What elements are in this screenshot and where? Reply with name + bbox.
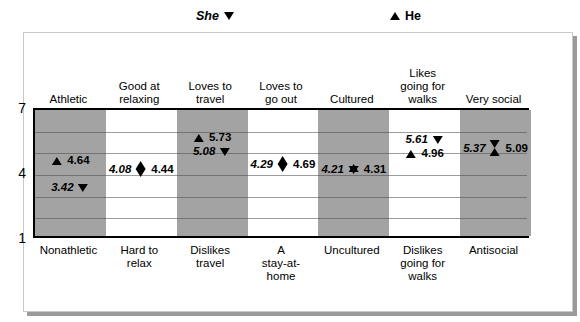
data-markers: 3.424.644.084.445.085.734.294.694.214.31… xyxy=(35,110,527,236)
chart-area: AthleticGood atrelaxingLoves totravelLov… xyxy=(33,48,529,238)
triangle-up-icon xyxy=(406,150,416,158)
data-value-he: 5.09 xyxy=(506,143,528,155)
data-value-he: 4.44 xyxy=(151,164,173,176)
star-marker-icon xyxy=(348,161,360,177)
data-value-she: 4.08 xyxy=(109,164,131,176)
marker-he: 4.96 xyxy=(406,148,444,160)
marker-glyph-she xyxy=(219,146,231,158)
triangle-down-icon xyxy=(220,148,230,156)
triangle-up-icon xyxy=(193,134,203,142)
bottom-category-labels: NonathleticHard torelaxDislikestravelAst… xyxy=(33,240,529,300)
chart-page: She He 7 4 1 AthleticGood atrelaxingLove… xyxy=(0,0,580,322)
data-value-she: 5.08 xyxy=(193,146,215,158)
marker-he: 4.64 xyxy=(51,155,89,167)
triangle-up-icon xyxy=(136,161,146,169)
data-value-she: 5.61 xyxy=(406,134,428,146)
bottom-category-label: Astay-at-home xyxy=(246,244,317,283)
triangle-down-icon xyxy=(490,140,500,148)
data-value-she: 5.37 xyxy=(463,143,485,155)
data-value-she: 4.29 xyxy=(251,159,273,171)
marker-glyph-he xyxy=(406,148,418,160)
y-tick-1: 1 xyxy=(18,231,26,245)
marker-she: 5.61 xyxy=(406,134,444,146)
top-category-label: Cultured xyxy=(316,93,387,106)
data-value-he: 4.64 xyxy=(67,155,89,167)
bottom-category-label: Nonathletic xyxy=(33,244,104,257)
legend-item-she: She xyxy=(196,10,234,23)
marker-pair-hourglass: 5.375.09 xyxy=(463,140,528,156)
marker-pair-star: 4.214.31 xyxy=(321,161,386,177)
top-category-labels: AthleticGood atrelaxingLoves totravelLov… xyxy=(33,48,529,108)
top-category-label: Athletic xyxy=(33,93,104,106)
data-value-he: 4.69 xyxy=(293,159,315,171)
y-tick-4: 4 xyxy=(18,166,26,180)
triangle-down-icon xyxy=(78,184,88,192)
bottom-category-label: Dislikesgoing forwalks xyxy=(387,244,458,283)
top-category-label: Good atrelaxing xyxy=(104,80,175,106)
triangle-down-icon xyxy=(432,136,442,144)
top-category-label: Loves totravel xyxy=(175,80,246,106)
bottom-category-label: Uncultured xyxy=(316,244,387,257)
triangle-down-icon xyxy=(278,164,288,172)
top-category-label: Very social xyxy=(458,93,529,106)
hourglass-marker-icon xyxy=(490,140,502,156)
marker-glyph-he xyxy=(51,155,63,167)
triangle-down-icon xyxy=(348,166,358,174)
marker-glyph-he xyxy=(193,132,205,144)
marker-she: 5.08 xyxy=(193,146,231,158)
diamond-marker-icon xyxy=(135,161,147,177)
marker-pair-diamond: 4.084.44 xyxy=(109,161,174,177)
marker-he: 5.73 xyxy=(193,132,231,144)
bottom-category-label: Antisocial xyxy=(458,244,529,257)
legend-label-she: She xyxy=(196,10,219,23)
marker-glyph-she xyxy=(78,182,90,194)
chart-legend: She He xyxy=(0,0,580,32)
diamond-marker-icon xyxy=(277,156,289,172)
triangle-up-icon xyxy=(52,157,62,165)
triangle-up-icon xyxy=(390,12,400,20)
triangle-down-icon xyxy=(136,169,146,177)
marker-she: 3.42 xyxy=(51,182,89,194)
y-axis: 7 4 1 xyxy=(0,48,33,238)
marker-pair-diamond: 4.294.69 xyxy=(251,156,316,172)
plot-area: 3.424.644.084.445.085.734.294.694.214.31… xyxy=(33,108,529,238)
triangle-up-icon xyxy=(490,148,500,156)
triangle-down-icon xyxy=(224,12,234,20)
data-value-she: 3.42 xyxy=(51,182,73,194)
y-tick-7: 7 xyxy=(18,101,26,115)
triangle-up-icon xyxy=(278,156,288,164)
marker-glyph-she xyxy=(432,134,444,146)
bottom-category-label: Dislikestravel xyxy=(175,244,246,270)
top-category-label: Likesgoing forwalks xyxy=(387,67,458,106)
data-value-he: 4.96 xyxy=(422,148,444,160)
data-value-he: 5.73 xyxy=(209,132,231,144)
data-value-he: 4.31 xyxy=(364,164,386,176)
data-value-she: 4.21 xyxy=(321,164,343,176)
legend-label-he: He xyxy=(405,10,421,23)
top-category-label: Loves togo out xyxy=(246,80,317,106)
bottom-category-label: Hard torelax xyxy=(104,244,175,270)
legend-item-he: He xyxy=(390,10,421,23)
